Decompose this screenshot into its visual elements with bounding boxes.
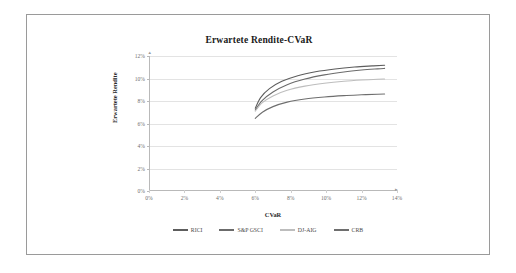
plot-area: 0%2%4%6%8%10%12% 0%2%4%6%8%10%12%14% ▸ ▸ bbox=[149, 56, 397, 191]
legend-swatch bbox=[219, 229, 234, 230]
x-tick-label: 4% bbox=[216, 195, 223, 201]
legend-label: CRB bbox=[352, 227, 364, 233]
chart-title: Erwartete Rendite-CVaR bbox=[27, 35, 491, 45]
legend-label: DJ-AIG bbox=[298, 227, 317, 233]
y-tick-label: 8% bbox=[138, 98, 145, 104]
y-tick-label: 4% bbox=[138, 143, 145, 149]
legend-swatch bbox=[173, 229, 188, 230]
x-tick-label: 2% bbox=[181, 195, 188, 201]
legend-label: RICI bbox=[191, 227, 203, 233]
x-tick-label: 6% bbox=[252, 195, 259, 201]
legend-swatch bbox=[334, 229, 349, 230]
y-axis-label: Erwartete Rendite bbox=[111, 72, 118, 123]
y-axis-arrow-icon: ▸ bbox=[145, 51, 151, 54]
series-line-crb bbox=[255, 94, 384, 118]
legend-swatch bbox=[280, 229, 295, 230]
y-tick-label: 12% bbox=[135, 53, 145, 59]
x-tick-label: 14% bbox=[392, 195, 402, 201]
x-tick-label: 12% bbox=[356, 195, 366, 201]
x-axis-arrow-icon: ▸ bbox=[395, 186, 398, 192]
series-curves bbox=[149, 56, 397, 191]
legend-label: S&P GSCI bbox=[237, 227, 262, 233]
legend-item-rici[interactable]: RICI bbox=[173, 227, 203, 233]
x-tick-label: 8% bbox=[287, 195, 294, 201]
legend-item-dj-aig[interactable]: DJ-AIG bbox=[280, 227, 317, 233]
chart-frame: Erwartete Rendite-CVaR Erwartete Rendite… bbox=[26, 14, 490, 255]
legend-item-s-p-gsci[interactable]: S&P GSCI bbox=[219, 227, 262, 233]
y-tick-label: 2% bbox=[138, 166, 145, 172]
series-line-rici bbox=[255, 65, 384, 108]
y-tick-label: 6% bbox=[138, 121, 145, 127]
y-tick-label: 0% bbox=[138, 188, 145, 194]
y-tick-label: 10% bbox=[135, 76, 145, 82]
chart-legend: RICIS&P GSCIDJ-AIGCRB bbox=[123, 227, 413, 233]
x-tick-label: 0% bbox=[145, 195, 152, 201]
chart-canvas: Erwartete Rendite-CVaR Erwartete Rendite… bbox=[27, 15, 491, 256]
series-line-s-p-gsci bbox=[255, 68, 384, 110]
legend-item-crb[interactable]: CRB bbox=[334, 227, 364, 233]
x-tick-label: 10% bbox=[321, 195, 331, 201]
x-axis-label: CVaR bbox=[149, 211, 397, 218]
